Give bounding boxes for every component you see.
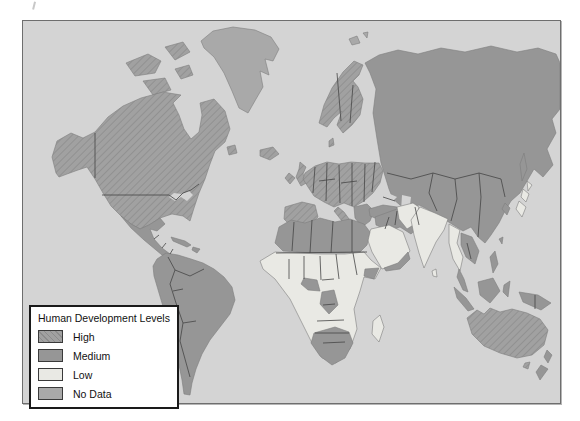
legend-label-medium: Medium	[73, 350, 110, 362]
legend-row-medium: Medium	[38, 349, 170, 362]
legend-row-low: Low	[38, 368, 170, 381]
legend-row-nodata: No Data	[38, 387, 170, 400]
legend-swatch-high	[38, 330, 63, 343]
legend-swatch-medium	[38, 349, 63, 362]
legend: Human Development Levels High Medium Low…	[29, 305, 179, 409]
scan-artifact-mark	[32, 2, 39, 11]
legend-title: Human Development Levels	[38, 312, 170, 324]
legend-swatch-nodata	[38, 387, 63, 400]
legend-label-nodata: No Data	[73, 388, 112, 400]
region-newfoundland	[227, 145, 237, 155]
legend-row-high: High	[38, 330, 170, 343]
page: Human Development Levels High Medium Low…	[0, 0, 580, 421]
legend-label-high: High	[73, 331, 95, 343]
region-north-africa	[275, 218, 370, 253]
world-map-frame: Human Development Levels High Medium Low…	[22, 20, 561, 404]
legend-swatch-low	[38, 368, 63, 381]
legend-label-low: Low	[73, 369, 92, 381]
